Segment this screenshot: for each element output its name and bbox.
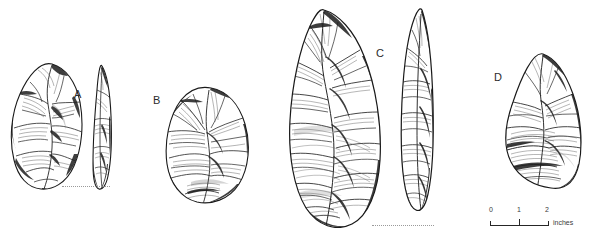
- figure-label-b: B: [153, 95, 161, 106]
- artifact-c-profile-view: [394, 8, 442, 214]
- artifact-a-baseline: [62, 186, 110, 187]
- figure-label-c: C: [376, 48, 384, 59]
- artifact-c-baseline: [372, 225, 434, 226]
- scale-tick-1: [519, 219, 520, 226]
- artifact-a-face-view: [8, 62, 88, 192]
- figure-label-a: A: [74, 89, 82, 100]
- scale-label-1: 1: [517, 206, 521, 213]
- scale-label-2: 2: [545, 206, 549, 213]
- artifact-c-face-view: [286, 8, 384, 228]
- scale-unit-label: inches: [553, 219, 573, 226]
- artifact-b-face-view: [163, 86, 253, 206]
- illustration-plate: A B C D 0 1 2 inches: [0, 0, 591, 240]
- scale-label-0: 0: [489, 206, 493, 213]
- artifact-d-face-view: [503, 52, 587, 192]
- scale-bar: 0 1 2 inches: [488, 206, 588, 232]
- artifact-a-profile-view: [89, 64, 117, 192]
- figure-label-d: D: [494, 72, 502, 83]
